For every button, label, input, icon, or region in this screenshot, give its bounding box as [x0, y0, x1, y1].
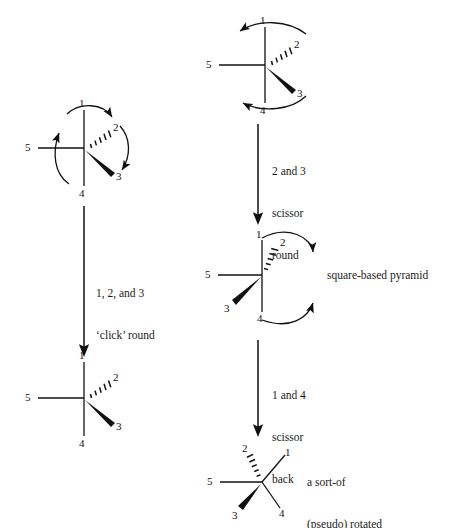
atom-label-1: 1 [79, 98, 85, 109]
atom-label-1: 1 [79, 350, 85, 361]
step-line: 1, 2, and 3 [96, 286, 155, 300]
atom-label-5: 5 [206, 59, 212, 70]
structure-start-molecule [38, 106, 129, 186]
atom-label-3: 3 [224, 303, 230, 314]
step-label-left-click-round: 1, 2, and 3 ‘click’ round [96, 258, 155, 370]
diagram-vectors [0, 0, 465, 528]
step-line: scissor [272, 430, 306, 444]
atom-label-4: 4 [79, 438, 85, 449]
atom-label-3: 3 [116, 421, 122, 432]
atom-label-2: 2 [113, 122, 119, 133]
atom-label-3: 3 [297, 88, 303, 99]
atom-label-2: 2 [242, 443, 248, 454]
structure-top-right-molecule [219, 23, 306, 109]
step-line: scissor [272, 206, 306, 220]
atom-label-4: 4 [257, 313, 263, 324]
atom-label-5: 5 [25, 142, 31, 153]
atom-label-1: 1 [260, 15, 266, 26]
note-final-molecule: a sort-of (pseudo) rotated version of th… [307, 447, 382, 528]
structure-bottom-left-molecule [38, 362, 115, 436]
note-line: a sort-of [307, 475, 382, 489]
atom-label-2: 2 [113, 372, 119, 383]
atom-label-3: 3 [116, 171, 122, 182]
step-label-2-and-3-scissor-round: 2 and 3 scissor round [272, 136, 306, 290]
step-label-1-and-4-scissor-back: 1 and 4 scissor back [272, 360, 306, 514]
step-line: back [272, 472, 306, 486]
atom-label-5: 5 [207, 476, 213, 487]
step-line: ‘click’ round [96, 328, 155, 342]
atom-label-5: 5 [205, 269, 211, 280]
note-square-based-pyramid: square-based pyramid [327, 268, 428, 282]
atom-label-1: 1 [256, 229, 262, 240]
note-line: (pseudo) rotated [307, 517, 382, 528]
diagram-canvas: 1 2 3 4 5 1 2 3 4 5 1 2 3 4 5 1 2 3 4 5 … [0, 0, 465, 528]
step-line: round [272, 248, 306, 262]
atom-label-4: 4 [79, 188, 85, 199]
step-line: 1 and 4 [272, 388, 306, 402]
atom-label-2: 2 [294, 39, 300, 50]
atom-label-5: 5 [25, 392, 31, 403]
atom-label-4: 4 [260, 105, 266, 116]
atom-label-3: 3 [232, 510, 238, 521]
step-line: 2 and 3 [272, 164, 306, 178]
